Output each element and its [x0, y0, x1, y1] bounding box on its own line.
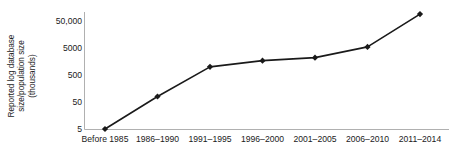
data-markers — [102, 11, 423, 132]
data-point-marker — [259, 58, 265, 64]
x-tick-label: 1986–1990 — [136, 134, 179, 144]
line-chart-figure: Reported log database size/population si… — [0, 0, 455, 151]
plot-area — [0, 0, 455, 151]
x-tick-label: Before 1985 — [82, 134, 129, 144]
x-tick-label: 2001–2005 — [293, 134, 336, 144]
x-tick-label: 2011–2014 — [399, 134, 441, 144]
data-point-marker — [312, 55, 318, 61]
data-line — [105, 14, 420, 129]
data-point-marker — [207, 64, 213, 70]
x-tick-label: 2006–2010 — [346, 134, 389, 144]
x-tick-label: 1996–2000 — [241, 134, 284, 144]
x-tick-label: 1991–1995 — [188, 134, 231, 144]
